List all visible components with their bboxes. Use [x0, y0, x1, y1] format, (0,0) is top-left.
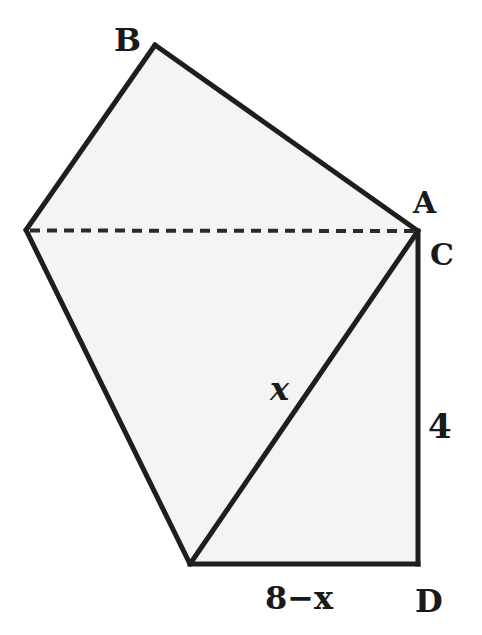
dashed-fold-line [30, 231, 414, 232]
geometry-diagram: B A C D x 4 8−x [0, 0, 482, 635]
label-b: B [114, 21, 141, 59]
label-side-8-minus-x: 8−x [265, 579, 334, 617]
label-a: A [412, 185, 437, 220]
upper-triangle-fill [26, 45, 418, 231]
label-d: D [415, 582, 443, 620]
label-side-4: 4 [428, 406, 452, 446]
label-hypotenuse-x: x [269, 370, 290, 408]
label-c: C [430, 237, 454, 272]
